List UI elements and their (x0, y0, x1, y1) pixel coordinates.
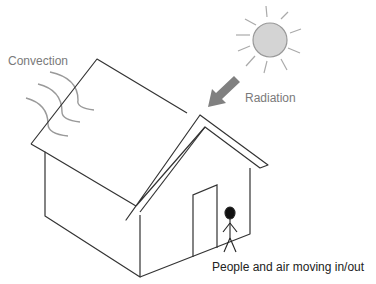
radiation-label: Radiation (245, 91, 296, 105)
wave-arcs-icon (26, 72, 94, 136)
arrow-down-left-icon (208, 76, 240, 107)
stick-figure-icon (223, 207, 237, 252)
convection-label: Convection (8, 54, 68, 68)
door-icon (193, 185, 217, 257)
people-air-label: People and air moving in/out (212, 260, 364, 274)
house-diagram (0, 0, 376, 284)
sun-icon (236, 6, 301, 73)
